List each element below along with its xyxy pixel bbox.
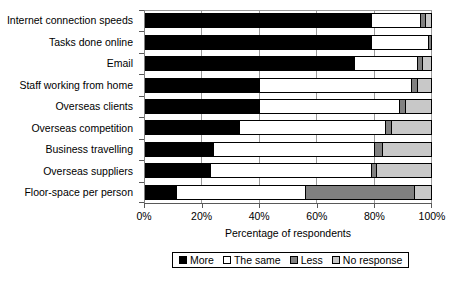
x-axis-tick <box>202 203 203 208</box>
stacked-bar[interactable] <box>145 56 432 71</box>
bar-segment[interactable] <box>415 185 432 200</box>
bar-segment[interactable] <box>418 78 432 93</box>
legend-label: More <box>190 255 214 266</box>
x-axis-ticks <box>144 203 432 208</box>
category-label: Email <box>0 53 138 74</box>
category-label: Overseas competition <box>0 117 138 138</box>
legend-item[interactable]: The same <box>223 255 281 266</box>
x-axis-title: Percentage of respondents <box>144 227 432 240</box>
bar-segment[interactable] <box>145 142 214 157</box>
bar-series-container <box>145 10 432 203</box>
legend-swatch-icon <box>290 256 298 264</box>
bar-segment[interactable] <box>145 35 372 50</box>
bar-segment[interactable] <box>214 142 375 157</box>
x-axis-tick-label: 0% <box>136 209 151 223</box>
chart-legend: MoreThe sameLessNo response <box>172 252 409 268</box>
stacked-bar[interactable] <box>145 185 432 200</box>
x-axis-tick <box>374 203 375 208</box>
category-label: Internet connection speeds <box>0 10 138 31</box>
bar-segment[interactable] <box>392 120 432 135</box>
bar-slot <box>145 117 432 138</box>
x-axis-tick-label: 80% <box>364 209 385 223</box>
bar-segment[interactable] <box>372 35 429 50</box>
bar-segment[interactable] <box>377 163 432 178</box>
legend-label: The same <box>234 255 281 266</box>
x-axis-tick-label: 100% <box>419 209 446 223</box>
category-axis-tick <box>139 182 144 183</box>
bar-slot <box>145 10 432 31</box>
plot-area <box>144 10 432 203</box>
x-axis-tick-label: 40% <box>249 209 270 223</box>
x-axis-tick-label: 20% <box>191 209 212 223</box>
bar-segment[interactable] <box>372 13 421 28</box>
bar-segment[interactable] <box>426 13 432 28</box>
bar-slot <box>145 139 432 160</box>
bar-slot <box>145 31 432 52</box>
stacked-bar[interactable] <box>145 99 432 114</box>
bar-segment[interactable] <box>145 120 240 135</box>
stacked-bar-chart: Internet connection speeds Tasks done on… <box>0 0 458 296</box>
category-axis-labels: Internet connection speeds Tasks done on… <box>0 10 138 203</box>
bar-slot <box>145 53 432 74</box>
legend-swatch-icon <box>332 256 340 264</box>
bar-segment[interactable] <box>406 99 432 114</box>
stacked-bar[interactable] <box>145 35 432 50</box>
bar-segment[interactable] <box>260 99 401 114</box>
category-axis-tick <box>139 117 144 118</box>
category-label: Staff working from home <box>0 74 138 95</box>
bar-segment[interactable] <box>145 185 177 200</box>
bar-segment[interactable] <box>375 142 384 157</box>
x-axis-tick <box>431 203 432 208</box>
bar-segment[interactable] <box>240 120 386 135</box>
bar-segment[interactable] <box>423 56 432 71</box>
legend-item[interactable]: More <box>179 255 214 266</box>
bar-segment[interactable] <box>145 56 355 71</box>
category-axis-tick <box>139 53 144 54</box>
x-axis-tick <box>144 203 145 208</box>
bar-slot <box>145 182 432 203</box>
stacked-bar[interactable] <box>145 78 432 93</box>
category-label: Business travelling <box>0 139 138 160</box>
bar-segment[interactable] <box>355 56 418 71</box>
bar-slot <box>145 96 432 117</box>
category-label: Overseas clients <box>0 96 138 117</box>
category-axis-tick <box>139 10 144 11</box>
bar-slot <box>145 160 432 181</box>
bar-segment[interactable] <box>260 78 412 93</box>
x-axis-tick-label: 60% <box>306 209 327 223</box>
legend-label: No response <box>343 255 403 266</box>
stacked-bar[interactable] <box>145 142 432 157</box>
category-axis-tick <box>139 139 144 140</box>
legend-label: Less <box>301 255 323 266</box>
bar-slot <box>145 74 432 95</box>
bar-segment[interactable] <box>145 13 372 28</box>
legend-item[interactable]: No response <box>332 255 403 266</box>
legend-item[interactable]: Less <box>290 255 323 266</box>
bar-segment[interactable] <box>177 185 306 200</box>
bar-segment[interactable] <box>211 163 372 178</box>
bar-segment[interactable] <box>145 78 260 93</box>
stacked-bar[interactable] <box>145 120 432 135</box>
category-label: Floor-space per person <box>0 182 138 203</box>
category-axis-tick <box>139 74 144 75</box>
legend-swatch-icon <box>223 256 231 264</box>
x-axis-tick <box>259 203 260 208</box>
x-axis-tick-labels: 0%20%40%60%80%100% <box>144 209 432 223</box>
stacked-bar[interactable] <box>145 163 432 178</box>
bar-segment[interactable] <box>429 35 432 50</box>
category-label: Tasks done online <box>0 31 138 52</box>
category-axis-ticks <box>139 10 144 203</box>
category-axis-tick <box>139 96 144 97</box>
bar-segment[interactable] <box>383 142 432 157</box>
legend-swatch-icon <box>179 256 187 264</box>
category-label: Overseas suppliers <box>0 160 138 181</box>
bar-segment[interactable] <box>145 99 260 114</box>
bar-segment[interactable] <box>145 163 211 178</box>
x-axis-tick <box>317 203 318 208</box>
category-axis-tick <box>139 160 144 161</box>
stacked-bar[interactable] <box>145 13 432 28</box>
bar-segment[interactable] <box>306 185 415 200</box>
category-axis-tick <box>139 31 144 32</box>
